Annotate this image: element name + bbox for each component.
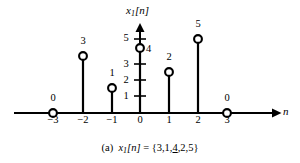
marker-n-minus-2 xyxy=(79,52,87,60)
figure-caption: (a) x1[n] = {3,1,4,2,5} xyxy=(0,142,300,155)
x-tick-label-1: 1 xyxy=(157,114,181,125)
value-label-n-minus-3: 0 xyxy=(41,92,65,103)
value-label-n-3: 0 xyxy=(215,92,239,103)
marker-n-1 xyxy=(165,68,173,76)
caption-signal-brackets: [n] xyxy=(127,142,140,153)
x-tick-label-0: 0 xyxy=(128,114,152,125)
x-tick-label-minus-1: −1 xyxy=(100,114,124,125)
stem-plot-canvas xyxy=(0,0,300,163)
caption-equals: = xyxy=(143,142,149,153)
caption-part-label: (a) xyxy=(101,142,113,153)
caption-values-after-origin: ,2,5 xyxy=(178,142,194,153)
x-tick-label-2: 2 xyxy=(186,114,210,125)
value-label-n-minus-2: 3 xyxy=(71,35,95,46)
marker-n-minus-1 xyxy=(108,84,116,92)
x-axis-label: n xyxy=(283,105,289,117)
x-tick-label-minus-3: −3 xyxy=(41,114,65,125)
caption-close-brace: } xyxy=(193,142,198,153)
value-label-n-minus-1: 1 xyxy=(100,67,124,78)
value-label-n-2: 5 xyxy=(186,18,210,29)
stem-plot-figure: x1[n] n 1 2 3 5 −3 −2 −1 0 1 2 3 0 3 1 4… xyxy=(0,0,300,163)
y-axis-label-brackets: [n] xyxy=(135,4,149,16)
y-axis-arrowhead xyxy=(136,23,145,32)
x-tick-label-minus-2: −2 xyxy=(71,114,95,125)
marker-n-2 xyxy=(194,35,202,43)
value-label-n-1: 2 xyxy=(157,51,181,62)
x-tick-label-3: 3 xyxy=(215,114,239,125)
marker-n-0 xyxy=(136,44,144,52)
y-tick-label-5: 5 xyxy=(119,32,133,43)
y-tick-label-1: 1 xyxy=(119,90,133,101)
y-axis-label: x1[n] xyxy=(126,4,149,18)
x-axis-arrowhead xyxy=(272,109,282,118)
caption-values-before-origin: 3,1, xyxy=(157,142,173,153)
